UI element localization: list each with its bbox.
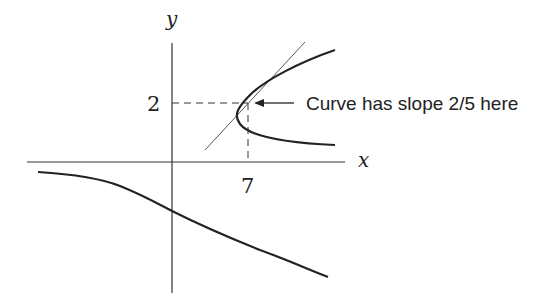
lower-curve (38, 172, 328, 277)
annotation-text: Curve has slope 2/5 here (306, 93, 518, 114)
x-axis-label: x (358, 148, 369, 172)
x-tick-label: 7 (241, 174, 254, 198)
diagram: x y 2 7 Curve has slope 2/5 here (0, 0, 534, 302)
y-tick-label: 2 (147, 92, 160, 116)
y-axis-label: y (165, 7, 178, 31)
annotation-arrow-head (254, 99, 264, 107)
